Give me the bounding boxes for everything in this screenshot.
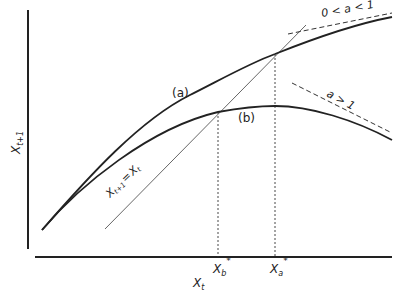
equilibrium-b-label: Xb* [212, 256, 231, 278]
label-a-gt-1: a > 1 [325, 87, 358, 113]
y-axis-label: Xt+1 [9, 131, 25, 155]
curve-b-label: (b) [238, 111, 255, 125]
curve-a-label: (a) [172, 86, 189, 100]
curve-b [42, 106, 392, 230]
equilibrium-a-label: Xa* [269, 256, 288, 278]
x-axis-label: Xt [192, 276, 205, 292]
curve-a [42, 17, 392, 230]
dashed-extension-decreasing [292, 83, 392, 133]
label-0-lt-a-lt-1: 0 < a < 1 [320, 0, 375, 20]
diagram-canvas: (a) (b) 0 < a < 1 a > 1 Xt+1=Xt Xt+1 Xt … [0, 0, 402, 298]
identity-line [105, 25, 306, 229]
svg-text:Xt+1: Xt+1 [9, 131, 25, 155]
